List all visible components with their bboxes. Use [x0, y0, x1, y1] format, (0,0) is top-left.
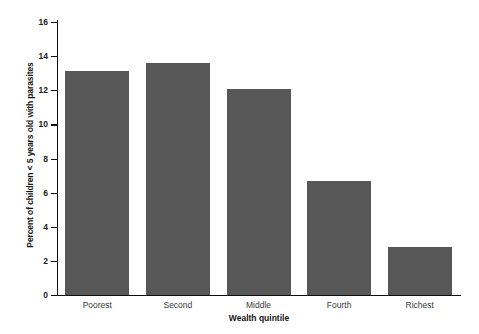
- y-axis-tick-label: 10: [39, 119, 48, 129]
- y-axis-tick-mark: [51, 159, 57, 160]
- y-axis-tick-mark: [51, 90, 57, 91]
- x-axis-tick-label: Fourth: [327, 300, 352, 310]
- y-axis-tick-label: 16: [39, 17, 48, 27]
- y-axis-tick-label: 8: [43, 154, 48, 164]
- y-axis-tick-mark: [51, 56, 57, 57]
- bar: [307, 181, 371, 295]
- y-axis-tick-label: 12: [39, 85, 48, 95]
- bar: [146, 63, 210, 295]
- y-axis-tick-label: 6: [43, 188, 48, 198]
- y-axis-tick-mark: [51, 124, 57, 125]
- bar: [388, 247, 452, 295]
- y-axis-tick-label: 0: [43, 290, 48, 300]
- y-axis-tick-mark: [51, 261, 57, 262]
- y-axis-tick-mark: [51, 193, 57, 194]
- x-axis-tick-label: Second: [163, 300, 192, 310]
- x-axis-tick-label: Middle: [246, 300, 271, 310]
- y-axis-tick-label: 4: [43, 222, 48, 232]
- y-axis-tick-mark: [51, 295, 57, 296]
- bar-chart: Percent of children < 5 years old with p…: [0, 0, 479, 334]
- y-axis-tick-label: 14: [39, 51, 48, 61]
- y-axis-tick-mark: [51, 227, 57, 228]
- y-axis-tick-label: 2: [43, 256, 48, 266]
- plot-area: 0246810121416: [57, 22, 460, 295]
- y-axis-title: Percent of children < 5 years old with p…: [23, 10, 37, 300]
- x-axis-tick-label: Poorest: [83, 300, 112, 310]
- bar: [227, 89, 291, 295]
- x-axis-tick-label: Richest: [406, 300, 434, 310]
- x-axis-title: Wealth quintile: [57, 313, 461, 323]
- bar: [65, 71, 129, 295]
- y-axis-tick-mark: [51, 22, 57, 23]
